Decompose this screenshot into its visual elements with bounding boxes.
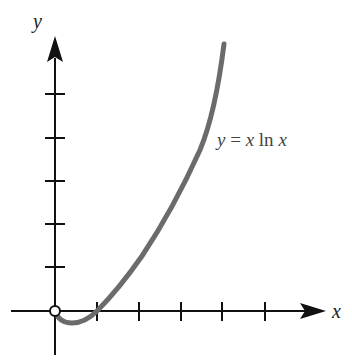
plot: y x y = x ln x	[0, 0, 352, 361]
curve-x-ln-x	[55, 44, 224, 323]
open-point-origin	[50, 306, 60, 316]
equation-annotation: y = x ln x	[215, 129, 287, 150]
x-axis-label: x	[331, 300, 341, 322]
y-axis-label: y	[31, 10, 42, 33]
